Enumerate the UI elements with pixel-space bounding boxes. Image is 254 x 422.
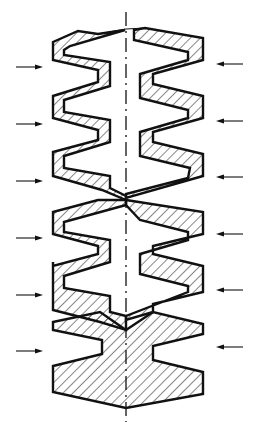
arrow-left-icon [216, 288, 243, 293]
arrow-right-icon [16, 179, 43, 184]
arrow-right-icon [16, 236, 43, 241]
solid-base-block [53, 312, 203, 408]
arrow-left-icon [216, 119, 243, 124]
arrow-left-icon [216, 232, 243, 237]
arrow-right-icon [16, 122, 43, 127]
arrow-right-icon [16, 293, 43, 298]
right-arrows [216, 62, 243, 350]
bellows-section-drawing [0, 0, 254, 422]
arrow-left-icon [216, 345, 243, 350]
right-wall-upper [126, 28, 203, 198]
arrow-left-icon [216, 175, 243, 180]
arrow-right-icon [16, 65, 43, 70]
left-wall-lower [53, 200, 126, 330]
right-wall-lower [126, 200, 203, 320]
arrow-left-icon [216, 62, 243, 67]
left-arrows [16, 65, 43, 354]
left-wall-upper [53, 30, 126, 200]
arrow-right-icon [16, 349, 43, 354]
